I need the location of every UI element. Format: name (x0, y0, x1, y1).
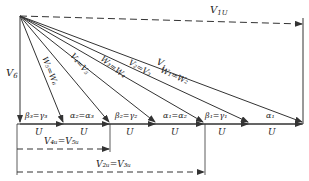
v1u-dashed-line (20, 16, 302, 24)
angle-label-1: β₃=γ₃ (24, 111, 48, 120)
w3w4-label: W₃=W₄ (99, 54, 128, 79)
u-label-2: U (80, 127, 88, 137)
u-label-3: U (126, 127, 134, 137)
u-label-6: U (268, 127, 276, 137)
angle-label-4: α₁=α₂ (163, 111, 187, 120)
w5w6-line (20, 16, 63, 122)
v2u-v3u-label: V₂ᵤ=V₃ᵤ (96, 159, 131, 169)
v4v5-line (20, 16, 109, 122)
angle-label-6: α₁ (266, 111, 275, 120)
u-label-4: U (171, 127, 179, 137)
v6-label: V6 (6, 67, 18, 80)
u-label-1: U (35, 127, 43, 137)
v1u-label: V1U (210, 4, 229, 17)
u-label-5: U (218, 127, 226, 137)
velocity-triangle-diagram: V1U V6 W₅=W₆ V₄=V₅ W₃=W₄ V₂=V₃ V1 W₁=W₂ … (0, 0, 309, 181)
angle-label-3: β₂=γ₂ (114, 111, 138, 120)
diagram-canvas: V1U V6 W₅=W₆ V₄=V₅ W₃=W₄ V₂=V₃ V1 W₁=W₂ … (0, 0, 309, 181)
angle-label-5: β₁=γ₁ (204, 111, 228, 120)
angle-label-2: α₂=α₃ (70, 111, 94, 120)
v4u-v5u-label: V₄ᵤ=V₅ᵤ (44, 136, 79, 146)
